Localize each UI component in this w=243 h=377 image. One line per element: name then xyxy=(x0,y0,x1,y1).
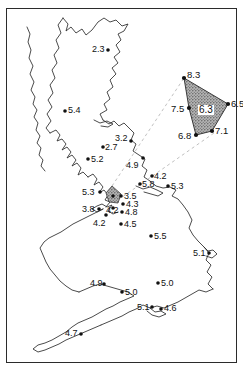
data-point-label: 5.8 xyxy=(142,180,155,189)
data-point-label: 5.3 xyxy=(82,188,95,197)
data-point-label: 2.3 xyxy=(92,45,105,54)
data-point-label: 5.2 xyxy=(91,155,104,164)
data-point-marker xyxy=(120,210,124,214)
map-canvas xyxy=(0,0,243,377)
data-point-marker xyxy=(121,202,125,206)
data-point-marker xyxy=(63,109,67,113)
data-point-label: 5.3 xyxy=(171,182,184,191)
data-point-marker xyxy=(159,307,163,311)
data-point-label: 2.7 xyxy=(105,143,118,152)
inset-vertex-label: 7.1 xyxy=(215,126,228,136)
data-point-marker xyxy=(102,282,106,286)
inset-vertex-label: 6.8 xyxy=(178,131,191,141)
data-point-label: 4.6 xyxy=(164,304,177,313)
data-point-label: 3.8 xyxy=(82,205,95,214)
map-figure: 2.35.42.73.25.24.95.35.84.25.33.54.34.23… xyxy=(0,0,243,377)
data-point-label: 5.0 xyxy=(161,279,174,288)
data-point-label: 4.8 xyxy=(125,208,138,217)
data-point-label: 5.1 xyxy=(193,249,206,258)
data-point-label: 4.5 xyxy=(124,220,137,229)
data-point-marker xyxy=(79,332,83,336)
data-point-label: 4.7 xyxy=(65,329,78,338)
data-point-label: 4.9 xyxy=(126,161,139,170)
data-point-marker xyxy=(97,207,101,211)
data-point-marker xyxy=(119,222,123,226)
data-point-label: 4.2 xyxy=(93,219,106,228)
data-point-marker xyxy=(166,184,170,188)
data-point-marker xyxy=(119,194,123,198)
inset-vertex-label: 8.3 xyxy=(187,70,200,80)
inset-center-label: 6.3 xyxy=(198,105,214,115)
inset-vertex-label: 6.5 xyxy=(231,99,243,109)
data-point-label: 4.2 xyxy=(106,206,119,215)
data-point-marker xyxy=(141,156,145,160)
data-point-label: 4.2 xyxy=(154,172,167,181)
data-point-label: 5.5 xyxy=(154,232,167,241)
data-point-label: 4.9 xyxy=(90,279,103,288)
data-point-marker xyxy=(86,157,90,161)
data-point-label: 5.4 xyxy=(68,106,81,115)
data-point-label: 5.0 xyxy=(125,288,138,297)
data-point-marker xyxy=(150,305,154,309)
data-point-marker xyxy=(149,234,153,238)
data-point-marker xyxy=(106,48,110,52)
data-point-marker xyxy=(98,190,102,194)
data-point-label: 5.1 xyxy=(137,303,150,312)
data-point-marker xyxy=(207,251,211,255)
data-point-label: 3.2 xyxy=(115,134,128,143)
data-point-marker xyxy=(129,139,133,143)
inset-vertex-label: 7.5 xyxy=(171,104,184,114)
highlight-region-centroid-marker xyxy=(111,194,114,197)
data-point-marker xyxy=(120,290,124,294)
data-point-marker xyxy=(156,281,160,285)
